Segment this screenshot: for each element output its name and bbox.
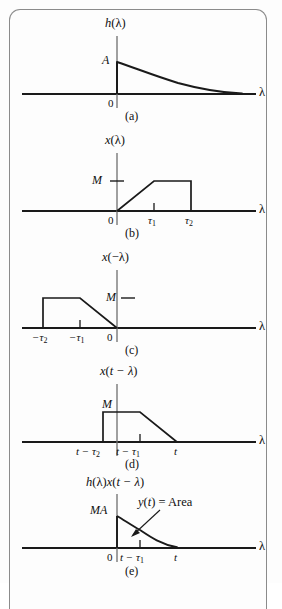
amplitude-label-e: MA [90,504,107,516]
panel-b-plot [10,133,266,241]
tick-tau1-b: τ1 [148,215,156,228]
axis-label-b: λ [259,203,265,216]
panel-a-title: h(λ) [105,17,126,30]
exponential-curve-a [117,62,242,94]
panel-c: x(−λ) M −τ2 −τ1 0 λ (c) [10,250,266,358]
amplitude-label-d: M [102,398,112,410]
caption-a: (a) [125,110,138,122]
product-curve-e [117,516,177,548]
caption-b: (b) [125,227,139,239]
tick-t-e: t [174,552,177,563]
axis-label-d: λ [259,434,265,447]
panel-e-title: h(λ)x(t − λ) [86,476,144,489]
tick-t-minus-tau2-d: t − τ2 [76,446,100,459]
tick-neg-tau1-c: −τ1 [69,332,84,345]
origin-label-a: 0 [108,98,114,109]
tick-t-d: t [174,446,177,457]
axis-label-a: λ [259,86,265,99]
panel-b: x(λ) M 0 τ1 τ2 λ (b) [10,133,266,241]
panel-d: x(t − λ) M t − τ2 t − τ1 t λ (d) [10,364,266,472]
panel-b-title: x(λ) [105,134,125,147]
panel-c-plot [10,250,266,358]
amplitude-label-a: A [102,54,109,66]
panel-e: h(λ)x(t − λ) MA y(t) = Area 0 t − τ1 t λ… [10,476,266,584]
caption-d: (d) [125,458,139,470]
origin-label-e: 0 [107,552,113,563]
tick-tau2-b: τ2 [185,215,193,228]
caption-e: (e) [125,565,138,577]
panel-d-title: x(t − λ) [100,365,137,378]
origin-label-b: 0 [108,215,114,226]
axis-label-e: λ [259,540,265,553]
panel-a: h(λ) A 0 λ (a) [10,16,266,124]
amplitude-label-b: M [92,174,102,186]
area-annotation-e: y(t) = Area [138,496,192,509]
tick-neg-tau2-c: −τ2 [32,332,47,345]
panel-a-plot [10,16,266,124]
amplitude-label-c: M [106,291,116,303]
origin-label-c: 0 [107,332,113,343]
caption-c: (c) [125,344,138,356]
panel-c-title: x(−λ) [102,251,129,264]
axis-label-c: λ [259,320,265,333]
